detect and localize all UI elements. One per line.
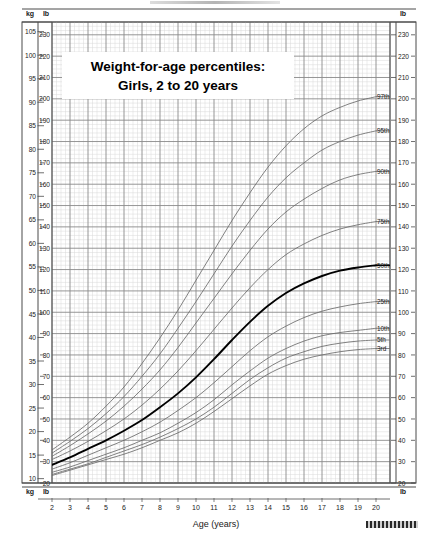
age-tick-label: 9 (176, 504, 180, 511)
lb-tick-label-right: 210 (398, 74, 409, 81)
kg-tick-label: 50 (29, 287, 37, 294)
lb-tick-label-right: 20 (398, 480, 406, 487)
lb-unit-top-right: lb (400, 10, 406, 17)
percentile-label-95th: 95th (377, 127, 390, 134)
lb-tick-label-right: 130 (398, 245, 409, 252)
kg-tick-label: 10 (29, 475, 37, 482)
age-tick-label: 15 (282, 504, 290, 511)
lb-tick-label-right: 220 (398, 53, 409, 60)
percentile-label-3rd: 3rd (377, 345, 387, 352)
age-tick-label: 6 (122, 504, 126, 511)
age-tick-label: 12 (228, 504, 236, 511)
age-tick-label: 20 (372, 504, 380, 511)
lb-tick-label-right: 40 (398, 437, 406, 444)
chart-title: Weight-for-age percentiles: (91, 59, 266, 74)
chart-subtitle: Girls, 2 to 20 years (118, 78, 238, 93)
age-tick-label: 19 (354, 504, 362, 511)
x-axis-title: Age (years) (193, 519, 240, 529)
kg-tick-label: 85 (29, 122, 37, 129)
kg-unit-bottom-left: kg (26, 488, 34, 496)
lb-tick-label-right: 140 (398, 223, 409, 230)
kg-tick-label: 55 (29, 263, 37, 270)
lb-tick-label-right: 30 (398, 458, 406, 465)
top-edge-artifact (150, 1, 280, 4)
kg-tick-label: 70 (29, 193, 37, 200)
age-tick-label: 13 (246, 504, 254, 511)
kg-unit-top-left: kg (26, 10, 34, 18)
age-tick-label: 8 (158, 504, 162, 511)
lb-tick-label-right: 60 (398, 394, 406, 401)
kg-tick-label: 20 (29, 428, 37, 435)
lb-tick-label-right: 170 (398, 159, 409, 166)
age-tick-label: 3 (68, 504, 72, 511)
kg-tick-label: 100 (25, 52, 36, 59)
lb-tick-label-right: 110 (398, 288, 409, 295)
lb-tick-label-right: 230 (398, 31, 409, 38)
kg-tick-label: 15 (29, 452, 37, 459)
kg-tick-label: 60 (29, 240, 37, 247)
percentile-label-90th: 90th (377, 168, 390, 175)
percentile-label-75th: 75th (377, 218, 390, 225)
lb-unit-bottom-right: lb (400, 488, 406, 495)
age-tick-label: 10 (192, 504, 200, 511)
kg-tick-label: 65 (29, 216, 37, 223)
age-tick-label: 18 (336, 504, 344, 511)
percentile-label-97th: 97th (377, 93, 390, 100)
age-tick-label: 7 (140, 504, 144, 511)
lb-tick-label-right: 90 (398, 330, 406, 337)
lb-unit-bottom-left: lb (43, 488, 49, 495)
bottom-right-marker (366, 521, 418, 528)
kg-tick-label: 75 (29, 169, 37, 176)
lb-unit-top-left: lb (43, 10, 49, 17)
age-tick-label: 16 (300, 504, 308, 511)
lb-tick-label-right: 50 (398, 416, 406, 423)
kg-tick-label: 90 (29, 99, 37, 106)
percentile-label-50th: 50th (377, 262, 390, 269)
age-tick-label: 2 (50, 504, 54, 511)
age-tick-label: 14 (264, 504, 272, 511)
growth-chart-page: 1015202530354045505560657075808590951001… (0, 0, 426, 534)
kg-tick-label: 35 (29, 358, 37, 365)
age-tick-label: 5 (104, 504, 108, 511)
percentile-label-5th: 5th (377, 336, 386, 343)
kg-tick-label: 25 (29, 405, 37, 412)
percentile-label-10th: 10th (377, 325, 390, 332)
lb-tick-label-right: 100 (398, 309, 409, 316)
kg-tick-label: 30 (29, 381, 37, 388)
lb-tick-label-right: 80 (398, 352, 406, 359)
kg-tick-label: 45 (29, 311, 37, 318)
kg-tick-label: 95 (29, 75, 37, 82)
kg-tick-label: 105 (25, 28, 36, 35)
kg-tick-label: 80 (29, 146, 37, 153)
age-tick-label: 17 (318, 504, 326, 511)
lb-tick-label-right: 160 (398, 181, 409, 188)
lb-tick-label-right: 180 (398, 138, 409, 145)
age-tick-label: 4 (86, 504, 90, 511)
weight-for-age-chart: 1015202530354045505560657075808590951001… (0, 0, 426, 534)
lb-tick-label-right: 120 (398, 266, 409, 273)
lb-tick-label-right: 190 (398, 117, 409, 124)
axis-x: 234567891011121314151617181920 (38, 498, 390, 511)
lb-tick-label-right: 70 (398, 373, 406, 380)
percentile-label-25th: 25th (377, 298, 390, 305)
lb-tick-label-right: 200 (398, 95, 409, 102)
kg-tick-label: 40 (29, 334, 37, 341)
lb-tick-label-right: 150 (398, 202, 409, 209)
age-tick-label: 11 (210, 504, 217, 511)
